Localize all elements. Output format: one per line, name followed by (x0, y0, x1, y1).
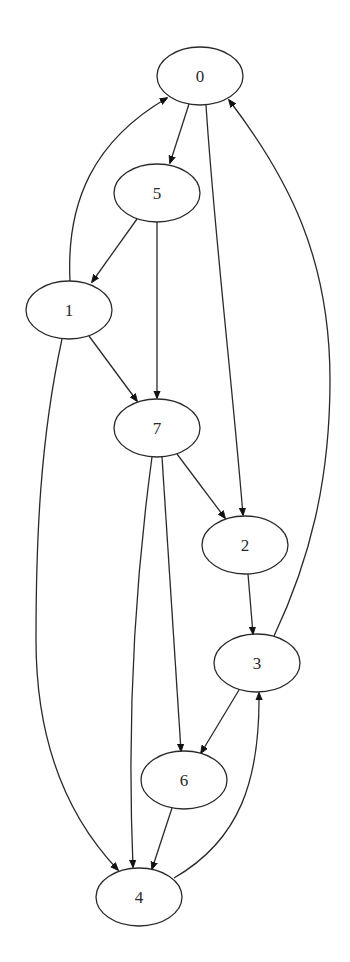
edge-7-to-6 (162, 457, 181, 751)
node-label: 2 (241, 536, 250, 555)
edge-1-to-4 (36, 339, 118, 870)
edge-7-to-2 (177, 454, 225, 518)
node-label: 4 (135, 888, 144, 907)
node-label: 5 (153, 184, 162, 203)
node-3: 3 (214, 634, 300, 692)
node-2: 2 (202, 516, 288, 574)
directed-graph: 0 5 1 7 2 3 6 4 (0, 0, 350, 962)
node-6: 6 (141, 751, 227, 809)
edge-1-to-7 (89, 336, 137, 401)
node-label: 3 (253, 654, 262, 673)
node-4: 4 (96, 868, 182, 926)
node-1: 1 (26, 281, 112, 339)
edge-5-to-1 (92, 219, 137, 282)
edge-0-to-5 (170, 104, 189, 163)
node-5: 5 (114, 164, 200, 222)
node-0: 0 (157, 47, 243, 105)
node-label: 7 (153, 419, 162, 438)
node-7: 7 (114, 399, 200, 457)
edge-3-to-6 (201, 690, 239, 753)
edge-0-to-2 (206, 105, 243, 515)
edge-7-to-4 (131, 457, 152, 867)
node-label: 0 (196, 67, 205, 86)
edge-6-to-4 (152, 808, 172, 869)
node-label: 6 (180, 771, 189, 790)
node-label: 1 (65, 301, 74, 320)
edge-2-to-3 (248, 574, 253, 634)
